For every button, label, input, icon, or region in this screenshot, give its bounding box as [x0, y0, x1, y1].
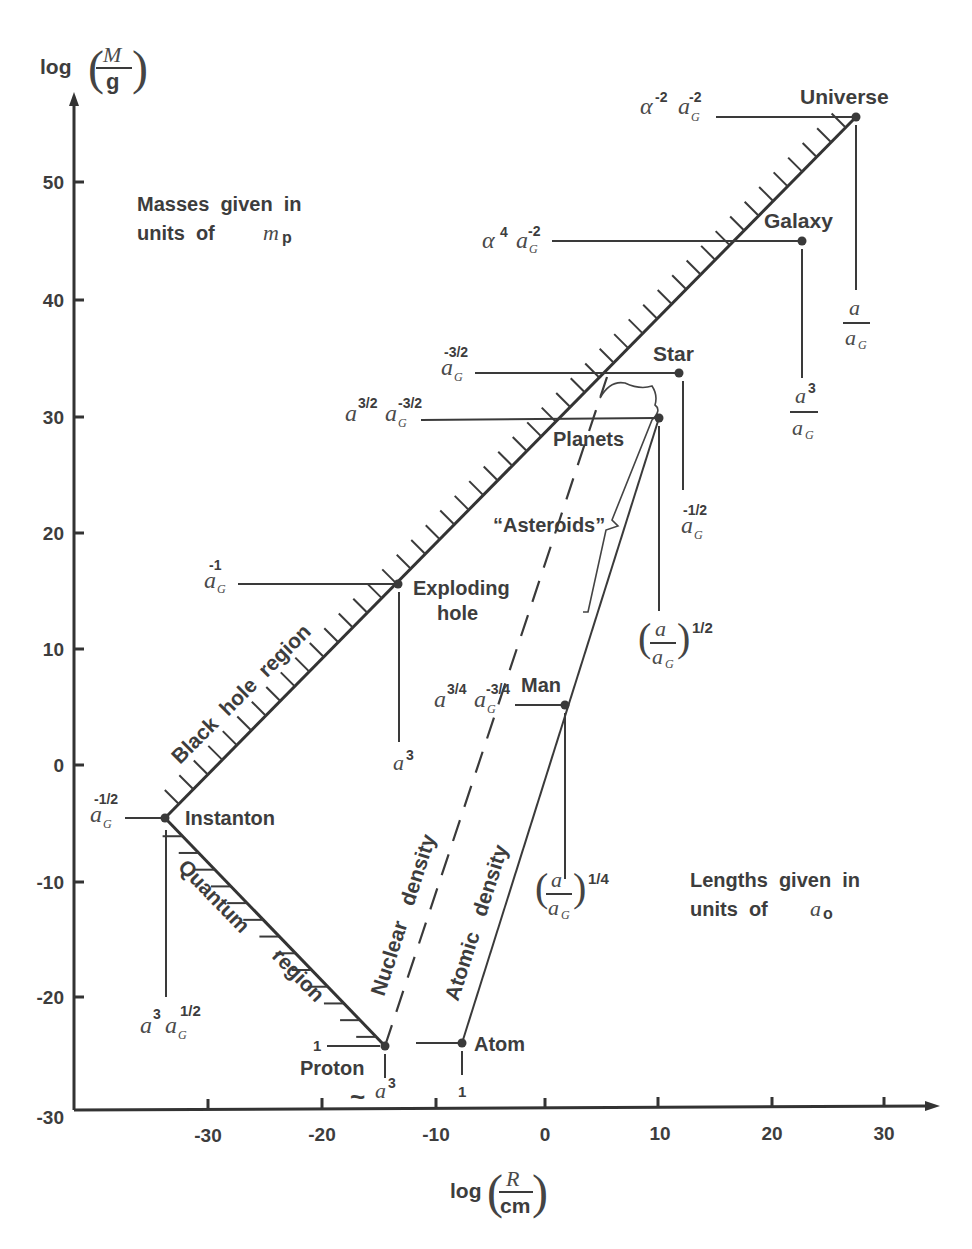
hatch-mark: [223, 731, 237, 745]
svg-text:a: a: [516, 227, 528, 253]
label-universe: Universe: [800, 85, 889, 108]
hatch-mark: [672, 275, 686, 289]
point-planets: [655, 414, 664, 423]
hatch-mark: [397, 555, 411, 569]
svg-text:Lengths given in: Lengths given in: [690, 869, 860, 891]
label-exploding: Exploding: [413, 577, 510, 599]
svg-text:G: G: [694, 528, 703, 542]
point-atom: [458, 1039, 467, 1048]
hatch-mark: [266, 687, 280, 701]
label-proton: Proton: [300, 1057, 364, 1079]
point-proton: [381, 1042, 390, 1051]
svg-text:α: α: [482, 227, 495, 253]
hatch-mark: [252, 702, 266, 716]
svg-text:1: 1: [313, 1037, 321, 1054]
hatch-mark: [614, 334, 628, 348]
svg-text:a: a: [810, 896, 821, 921]
svg-text:m: m: [263, 220, 279, 245]
svg-text:a: a: [655, 616, 666, 641]
x-axis-label: log ( R cm ): [450, 1165, 548, 1219]
svg-text:G: G: [561, 908, 570, 922]
masses-note: Masses given in units of m p: [137, 193, 302, 246]
svg-text:-2: -2: [689, 89, 702, 105]
label-asteroids: “Asteroids”: [493, 514, 605, 536]
y-tick-label: 20: [43, 523, 64, 544]
svg-text:a: a: [551, 867, 562, 892]
hatch-mark: [687, 261, 701, 275]
hatch-mark: [513, 437, 527, 451]
y-tick-label: 30: [43, 407, 64, 428]
svg-text:a: a: [548, 895, 559, 920]
x-tick-label: -30: [194, 1125, 221, 1146]
svg-text:units of: units of: [137, 222, 215, 244]
svg-text:1/4: 1/4: [588, 870, 610, 887]
svg-text:a: a: [375, 1078, 386, 1103]
y-tick-label: -10: [37, 872, 64, 893]
svg-text:G: G: [178, 1028, 187, 1042]
svg-text:(: (: [638, 615, 651, 660]
svg-text:G: G: [529, 242, 538, 256]
mass-radius-chart: 50 40 30 20 10 0 -10 -20 -30 log ( M g )…: [0, 0, 972, 1249]
hatch-mark: [571, 378, 585, 392]
svg-text:G: G: [487, 702, 496, 716]
label-galaxy: Galaxy: [764, 209, 833, 232]
hatch-mark: [382, 569, 396, 583]
hatch-mark: [281, 672, 295, 686]
label-nuclear-density: Nuclear density: [366, 831, 440, 998]
hatch-mark: [208, 746, 222, 760]
svg-text:a: a: [474, 686, 486, 712]
svg-text:-1/2: -1/2: [94, 791, 118, 807]
svg-text:a: a: [792, 415, 803, 440]
svg-text:): ): [532, 1165, 548, 1219]
label-quantum-region: region: [268, 944, 329, 1006]
svg-text:log: log: [450, 1179, 482, 1202]
svg-text:p: p: [282, 229, 292, 246]
label-atomic-density: Atomic density: [440, 842, 512, 1004]
svg-text:-1/2: -1/2: [683, 502, 707, 518]
x-tick-label: 20: [761, 1123, 782, 1144]
label-planets: Planets: [553, 428, 624, 450]
svg-text:G: G: [805, 428, 814, 442]
svg-text:G: G: [217, 582, 226, 596]
hatch-mark: [585, 364, 599, 378]
hatch-mark: [237, 716, 251, 730]
hatch-mark: [730, 216, 744, 230]
svg-text:g: g: [106, 69, 119, 94]
svg-text:a: a: [845, 325, 856, 350]
hatch-mark: [600, 349, 614, 363]
hatch-mark: [368, 584, 382, 598]
hatch-mark: [324, 628, 338, 642]
hatch-mark: [469, 481, 483, 495]
svg-text:o: o: [823, 905, 833, 922]
hatch-mark: [295, 658, 309, 672]
lengths-note: Lengths given in units of a o: [690, 869, 860, 922]
svg-text:a: a: [652, 644, 663, 669]
hatch-mark: [832, 114, 846, 128]
svg-text:G: G: [103, 817, 112, 831]
svg-text:a: a: [393, 750, 404, 775]
svg-text:G: G: [691, 110, 700, 124]
svg-text:-3/2: -3/2: [444, 344, 468, 360]
hatch-mark: [556, 393, 570, 407]
svg-text:3: 3: [808, 380, 816, 396]
svg-text:G: G: [858, 338, 867, 352]
y-tick-label: -20: [37, 987, 64, 1008]
x-tick-label: 30: [873, 1123, 894, 1144]
svg-text:-3/4: -3/4: [486, 681, 510, 697]
svg-text:G: G: [454, 370, 463, 384]
hatch-mark: [803, 143, 817, 157]
svg-text:a: a: [140, 1012, 152, 1038]
hatch-mark: [759, 187, 773, 201]
svg-text:G: G: [398, 416, 407, 430]
point-star: [675, 369, 684, 378]
x-tick-label: 10: [649, 1123, 670, 1144]
svg-text:-3/2: -3/2: [398, 395, 422, 411]
svg-text:-1: -1: [209, 557, 222, 573]
svg-text:a: a: [795, 383, 806, 408]
y-axis: 50 40 30 20 10 0 -10 -20 -30: [37, 92, 84, 1128]
svg-text:Masses given in: Masses given in: [137, 193, 302, 215]
svg-text:a: a: [385, 400, 397, 426]
label-instanton: Instanton: [185, 807, 275, 829]
hatch-mark: [353, 599, 367, 613]
svg-text:3: 3: [388, 1075, 396, 1091]
